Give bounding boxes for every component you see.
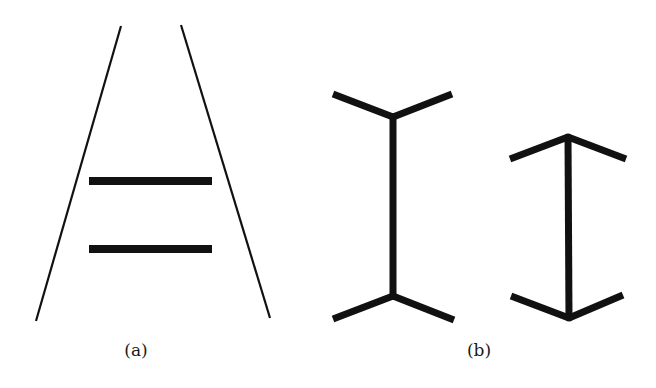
figure-drawing — [0, 0, 656, 388]
panel-a-label: (a) — [124, 340, 147, 360]
shaft — [568, 137, 569, 318]
panel-b-label: (b) — [467, 340, 491, 360]
vertex-joint — [390, 114, 397, 121]
fin — [510, 137, 568, 159]
illusion-figure: (a) (b) — [0, 0, 656, 388]
panel-a-ponzo-illusion — [36, 25, 270, 321]
muller-lyer-fins-in — [510, 134, 626, 322]
converging-line-right — [181, 25, 270, 318]
fin — [393, 94, 452, 117]
fin — [333, 296, 393, 319]
vertex-joint — [390, 293, 397, 300]
muller-lyer-fins-out — [333, 94, 454, 320]
fin — [333, 94, 393, 117]
converging-line-left — [36, 26, 121, 321]
fin — [568, 137, 626, 159]
fin — [511, 296, 569, 318]
panel-b-muller-lyer-illusion — [333, 94, 626, 322]
vertex-joint — [566, 315, 573, 322]
fin — [569, 295, 623, 318]
fin — [393, 296, 454, 320]
vertex-joint — [565, 134, 572, 141]
